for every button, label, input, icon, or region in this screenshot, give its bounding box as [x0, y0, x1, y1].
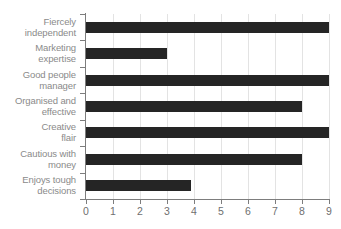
bar: [86, 127, 329, 138]
x-axis-tick: [140, 200, 141, 204]
y-axis-tick: [80, 14, 85, 15]
bar: [86, 22, 329, 33]
category-label-line: Enjoys tough: [0, 175, 76, 186]
x-axis-tick-label: 5: [211, 205, 231, 217]
x-axis-tick: [275, 200, 276, 204]
x-axis-tick-label: 4: [184, 205, 204, 217]
category-label-line: manager: [0, 81, 76, 92]
x-axis-tick-label: 9: [319, 205, 339, 217]
category-label-line: Fiercely: [0, 17, 76, 28]
x-axis-tick: [302, 200, 303, 204]
category-label: Organised andeffective: [0, 96, 76, 117]
category-label: Fiercelyindependent: [0, 17, 76, 38]
y-axis-line: [85, 13, 86, 200]
x-axis-tick-label: 8: [292, 205, 312, 217]
category-label: Cautious withmoney: [0, 149, 76, 170]
category-label-line: effective: [0, 107, 76, 118]
category-label: Creativeflair: [0, 122, 76, 143]
x-axis-tick-label: 6: [238, 205, 258, 217]
category-label-line: Organised and: [0, 96, 76, 107]
bar: [86, 48, 167, 59]
category-label-line: Marketing: [0, 43, 76, 54]
x-axis-tick: [167, 200, 168, 204]
y-axis-tick: [80, 67, 85, 68]
x-axis-tick: [113, 200, 114, 204]
y-axis-tick: [80, 40, 85, 41]
category-label: Enjoys toughdecisions: [0, 175, 76, 196]
y-axis-tick: [80, 146, 85, 147]
bar: [86, 154, 302, 165]
x-axis-tick-label: 3: [157, 205, 177, 217]
category-label-line: Good people: [0, 70, 76, 81]
x-axis-tick-label: 1: [103, 205, 123, 217]
x-axis-tick: [86, 200, 87, 204]
y-axis-category-labels: FiercelyindependentMarketingexpertiseGoo…: [0, 14, 80, 199]
horizontal-bar-chart: FiercelyindependentMarketingexpertiseGoo…: [0, 0, 341, 229]
y-axis-tick: [80, 93, 85, 94]
gridline-x-8: [302, 14, 303, 199]
bar: [86, 101, 302, 112]
x-axis-tick: [194, 200, 195, 204]
x-axis-tick-label: 0: [76, 205, 96, 217]
category-label-line: Creative: [0, 122, 76, 133]
category-label: Good peoplemanager: [0, 70, 76, 91]
category-label-line: decisions: [0, 186, 76, 197]
gridline-x-9: [329, 14, 330, 199]
category-label-line: expertise: [0, 54, 76, 65]
x-axis-line: [85, 199, 330, 200]
category-label: Marketingexpertise: [0, 43, 76, 64]
plot-area: [86, 14, 329, 199]
x-axis-tick: [248, 200, 249, 204]
category-label-line: flair: [0, 133, 76, 144]
bar: [86, 75, 329, 86]
category-label-line: money: [0, 160, 76, 171]
category-label-line: Cautious with: [0, 149, 76, 160]
category-label-line: independent: [0, 28, 76, 39]
x-axis-tick: [221, 200, 222, 204]
y-axis-tick: [80, 173, 85, 174]
y-axis-tick: [80, 199, 85, 200]
x-axis-tick-label: 2: [130, 205, 150, 217]
y-axis-tick: [80, 120, 85, 121]
x-axis-tick-label: 7: [265, 205, 285, 217]
x-axis-tick: [329, 200, 330, 204]
bar: [86, 180, 191, 191]
